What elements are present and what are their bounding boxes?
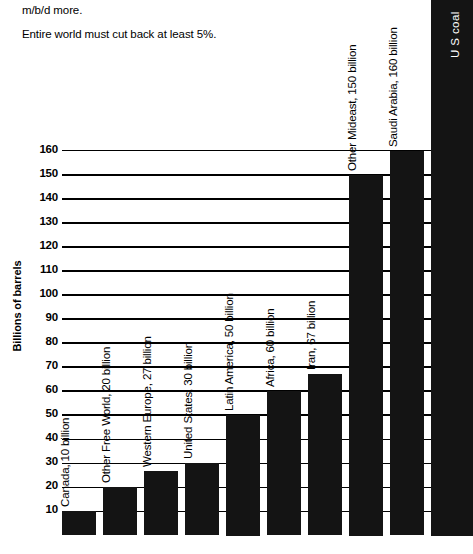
bar-label-canada: Canada, 10 billion <box>59 418 71 507</box>
y-tick-label-50: 50 <box>28 407 58 419</box>
bar-united-states <box>185 463 219 535</box>
bar-chart: Billions of barrels 10203040506070809010… <box>0 0 473 554</box>
bar-label-africa: Africa, 60 billion <box>264 309 276 387</box>
y-tick-label-30: 30 <box>28 455 58 467</box>
y-tick-label-130: 130 <box>28 215 58 227</box>
y-tick-label-70: 70 <box>28 359 58 371</box>
bar-u-s-coal <box>431 0 473 536</box>
bar-iran <box>308 374 342 535</box>
chart-page: average... p... y... , m/b/d more. Entir… <box>0 0 473 554</box>
bar-label-saudi-arabia: Saudi Arabia, 160 billion <box>387 27 399 147</box>
bar-western-europe <box>144 471 178 536</box>
y-tick-label-90: 90 <box>28 311 58 323</box>
bar-label-iran: Iran, 67 billion <box>305 301 317 370</box>
y-tick-label-60: 60 <box>28 383 58 395</box>
bar-label-western-europe: Western Europe, 27 billion <box>141 336 153 467</box>
y-tick-label-150: 150 <box>28 167 58 179</box>
bar-label-u-s-coal: U S coal <box>449 11 461 58</box>
y-tick-label-110: 110 <box>28 263 58 275</box>
y-tick-label-20: 20 <box>28 479 58 491</box>
bar-label-united-states: United States, 30 billion <box>182 342 194 459</box>
bar-canada <box>62 511 96 535</box>
y-tick-label-100: 100 <box>28 287 58 299</box>
bar-other-free-world <box>103 487 137 535</box>
y-tick-label-10: 10 <box>28 503 58 515</box>
bar-latin-america <box>226 415 260 535</box>
y-tick-label-160: 160 <box>28 143 58 155</box>
y-tick-label-120: 120 <box>28 239 58 251</box>
y-tick-label-80: 80 <box>28 335 58 347</box>
y-tick-label-140: 140 <box>28 191 58 203</box>
bar-label-other-mideast: Other Mideast, 150 billion <box>346 44 358 171</box>
y-tick-label-40: 40 <box>28 431 58 443</box>
bar-africa <box>267 391 301 535</box>
bar-other-mideast <box>349 175 383 536</box>
bar-saudi-arabia <box>390 151 424 536</box>
bar-label-other-free-world: Other Free World, 20 billion <box>100 347 112 483</box>
bar-label-latin-america: Latin America, 50 billion <box>223 294 235 412</box>
y-axis-label: Billions of barrels <box>11 251 23 361</box>
